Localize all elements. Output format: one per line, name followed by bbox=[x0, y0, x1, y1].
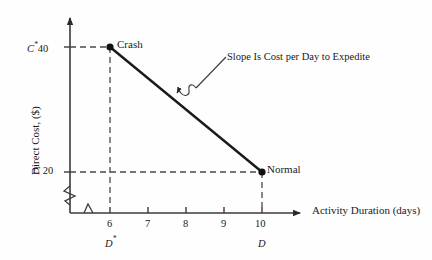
y-tick-label-normal: C 20 bbox=[33, 166, 53, 177]
y-tick-symbol-c: C bbox=[33, 165, 40, 176]
x-tick-label-6: 6 bbox=[107, 219, 112, 230]
x-symbol-star-icon: * bbox=[113, 234, 117, 243]
cost-duration-line bbox=[110, 47, 262, 172]
slope-annotation-text: Slope Is Cost per Day to Expedite bbox=[227, 52, 370, 63]
y-tick-label-crash: C*40 bbox=[27, 41, 48, 54]
y-tick-symbol-c-star: C bbox=[27, 43, 34, 54]
y-tick-value-40: 40 bbox=[38, 43, 49, 54]
data-point-normal bbox=[258, 168, 265, 175]
y-tick-value-20: 20 bbox=[43, 165, 54, 176]
x-tick-symbol-d: D bbox=[258, 234, 266, 250]
x-tick-label-9: 9 bbox=[221, 219, 226, 230]
data-point-label-crash: Crash bbox=[117, 39, 143, 50]
annotation-leader-line bbox=[196, 57, 226, 88]
x-symbol-d-letter: D bbox=[258, 238, 266, 249]
x-symbol-d-star-letter: D bbox=[105, 238, 113, 249]
x-axis-title: Activity Duration (days) bbox=[312, 205, 420, 216]
data-point-crash bbox=[106, 43, 113, 50]
chart-plot-area bbox=[0, 0, 432, 260]
chart-figure: Direct Cost, ($) C*40 C 20 6 7 8 9 10 D*… bbox=[0, 0, 432, 260]
data-point-label-normal: Normal bbox=[267, 164, 301, 175]
x-axis-break-icon bbox=[84, 204, 93, 213]
x-tick-symbol-d-star: D* bbox=[105, 234, 116, 250]
annotation-leader-squiggle-icon bbox=[177, 85, 196, 96]
x-tick-label-8: 8 bbox=[183, 219, 188, 230]
x-tick-label-10: 10 bbox=[255, 219, 266, 230]
x-tick-label-7: 7 bbox=[145, 219, 150, 230]
